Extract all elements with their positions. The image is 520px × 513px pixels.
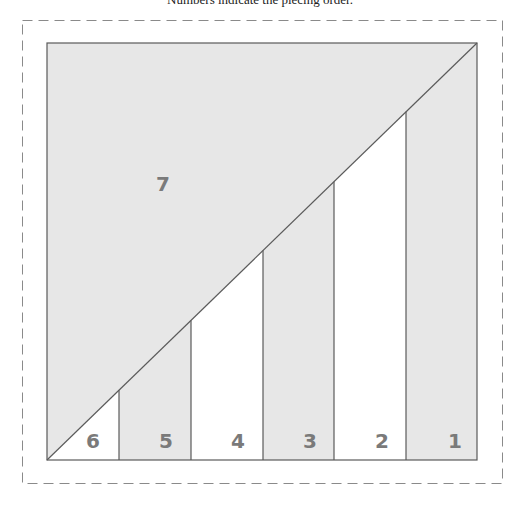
piece-label-4: 4 — [231, 429, 245, 453]
piece-label-2: 2 — [375, 429, 389, 453]
piece-label-3: 3 — [303, 429, 317, 453]
piece-label-5: 5 — [159, 429, 173, 453]
piece-label-6: 6 — [86, 429, 100, 453]
piecing-diagram: 6 5 4 3 2 1 7 — [0, 0, 520, 513]
piece-label-1: 1 — [448, 429, 462, 453]
piece-label-7: 7 — [156, 172, 170, 196]
